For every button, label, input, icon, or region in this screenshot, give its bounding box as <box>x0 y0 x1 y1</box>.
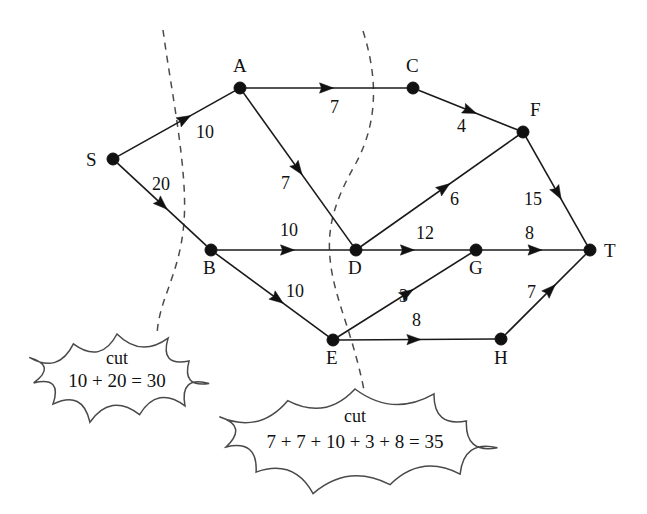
edge-capacity-S-A: 10 <box>196 123 214 141</box>
arrowhead-B-D <box>281 245 295 255</box>
arrowhead-B-E <box>269 291 283 304</box>
edge-capacity-F-T: 15 <box>524 190 542 208</box>
arrowhead-F-T <box>550 185 562 200</box>
cloud-sum-cut-left: 10 + 20 = 30 <box>0 369 247 393</box>
arrowhead-E-H <box>407 334 421 344</box>
node-dot-E[interactable] <box>327 334 339 346</box>
edge-B-E <box>216 254 328 337</box>
cloud-title-cut-right: cut <box>285 405 425 428</box>
arrowhead-A-D <box>290 160 302 174</box>
edge-H-T <box>505 254 586 335</box>
node-dot-B[interactable] <box>205 244 217 256</box>
cloud-sum-cut-right: 7 + 7 + 10 + 3 + 8 = 35 <box>225 430 485 454</box>
node-dot-H[interactable] <box>495 333 507 345</box>
edge-capacity-B-E: 10 <box>286 282 304 300</box>
node-label-D: D <box>348 258 362 277</box>
edge-capacity-C-F: 4 <box>457 117 466 135</box>
node-label-E: E <box>326 348 338 367</box>
node-dot-T[interactable] <box>584 244 596 256</box>
cut-dashed-lines <box>157 30 373 390</box>
node-label-B: B <box>203 258 216 277</box>
node-label-F: F <box>530 100 541 119</box>
node-dot-S[interactable] <box>107 153 119 165</box>
edge-D-F <box>361 136 518 247</box>
edge-S-A <box>118 91 235 156</box>
node-label-G: G <box>469 258 483 277</box>
arrowhead-D-G <box>400 245 414 255</box>
edge-capacity-E-G: 3 <box>399 287 408 305</box>
node-label-A: A <box>233 56 247 75</box>
edge-capacity-H-T: 7 <box>527 283 536 301</box>
edge-capacity-A-D: 7 <box>281 174 290 192</box>
node-dot-A[interactable] <box>234 82 246 94</box>
node-label-C: C <box>406 56 419 75</box>
edge-capacity-G-T: 8 <box>525 224 534 242</box>
edge-capacity-E-H: 8 <box>412 311 421 329</box>
node-label-T: T <box>604 241 616 260</box>
arrowhead-S-A <box>176 116 191 127</box>
node-label-S: S <box>86 150 97 169</box>
edge-capacity-S-B: 20 <box>152 175 170 193</box>
edge-capacity-D-F: 6 <box>450 190 459 208</box>
edge-capacity-D-G: 12 <box>416 224 434 242</box>
node-dot-G[interactable] <box>470 244 482 256</box>
node-dot-C[interactable] <box>407 82 419 94</box>
edge-capacity-A-C: 7 <box>330 98 339 116</box>
graph-edges <box>117 88 587 340</box>
arrowhead-A-C <box>320 83 334 93</box>
edge-capacity-B-D: 10 <box>280 221 298 239</box>
cloud-title-cut-left: cut <box>47 347 187 370</box>
arrowhead-D-F <box>436 184 450 196</box>
diagram-canvas: SABCDEFGHT 10207710104612381587 cut10 + … <box>0 0 647 514</box>
node-label-H: H <box>494 348 508 367</box>
arrowhead-G-T <box>528 245 542 255</box>
node-dot-D[interactable] <box>350 244 362 256</box>
node-dot-F[interactable] <box>517 126 529 138</box>
